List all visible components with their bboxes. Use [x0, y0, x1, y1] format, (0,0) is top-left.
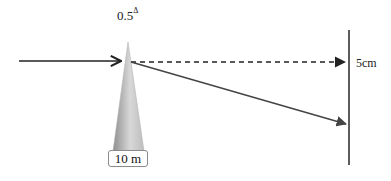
deviated-ray: [131, 62, 346, 124]
distance-label-box: 10 m: [108, 150, 148, 167]
prism-deviation-diagram: [0, 0, 391, 181]
prism-diopter-symbol: Δ: [133, 6, 138, 15]
prism-power-label: 0.5Δ: [117, 8, 138, 24]
deviation-label: 5cm: [356, 56, 377, 71]
prism-icon: [113, 42, 144, 151]
